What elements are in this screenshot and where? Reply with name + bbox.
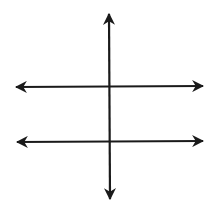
parallel-lines-transversal-diagram (0, 0, 217, 205)
parallel-line-1-line (16, 86, 203, 87)
lines-group (16, 14, 203, 199)
parallel-line-2-line (17, 141, 203, 142)
transversal-line (109, 14, 110, 199)
